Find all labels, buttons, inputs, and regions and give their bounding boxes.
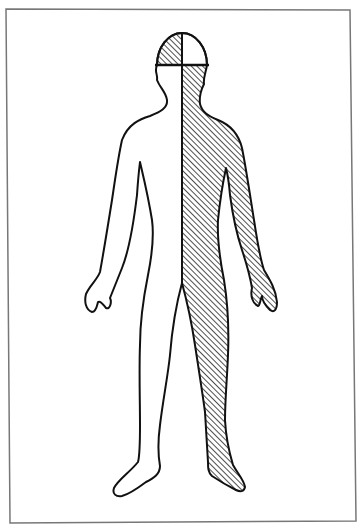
body-diagram <box>0 0 361 527</box>
body-right-half <box>182 65 277 491</box>
body-left-half <box>85 65 182 496</box>
